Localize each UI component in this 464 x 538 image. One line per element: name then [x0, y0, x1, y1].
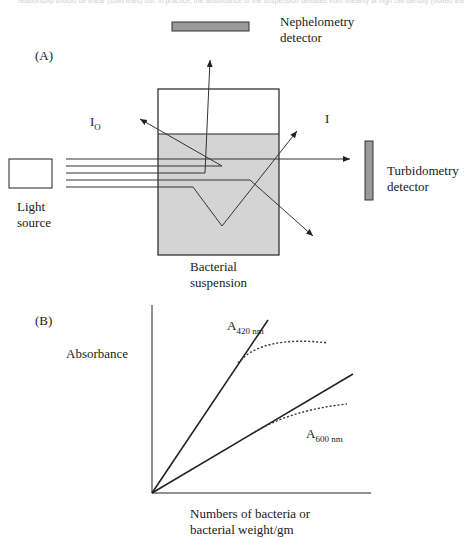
x-axis-label: Numbers of bacteria or bacterial weight/…	[190, 506, 310, 538]
series-a420	[152, 320, 328, 493]
light-source-icon	[9, 159, 52, 188]
series-a600-label: A600 nm	[306, 426, 343, 443]
cuvette-icon	[158, 89, 279, 255]
nephelometry-detector-label: Nephelometry detector	[280, 14, 354, 46]
panel-a-label: (A)	[35, 48, 53, 64]
transmitted-intensity-label: I	[325, 111, 329, 127]
panel-a	[9, 22, 373, 255]
light-source-label: Light source	[17, 199, 51, 231]
nephelometry-detector-icon	[172, 22, 249, 31]
turbidometry-detector-label: Turbidometry detector	[387, 163, 459, 195]
series-a420-label: A420 nm	[227, 318, 264, 335]
turbidometry-detector-icon	[365, 141, 373, 200]
y-axis-label: Absorbance	[66, 346, 128, 362]
panel-b-label: (B)	[35, 313, 52, 329]
bacterial-suspension-label: Bacterial suspension	[190, 259, 247, 291]
incident-intensity-label: IO	[90, 114, 101, 131]
